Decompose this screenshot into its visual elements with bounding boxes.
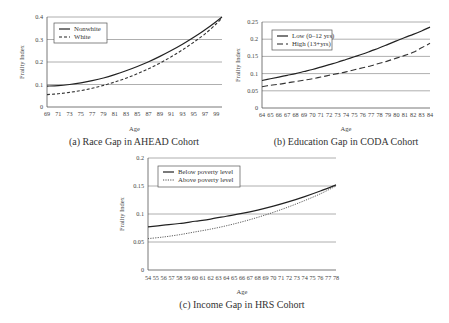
- x-tick-label: 83: [419, 111, 425, 118]
- legend-label: Nonwhite: [74, 25, 101, 32]
- x-tick-label: 70: [309, 111, 315, 118]
- legend-label: Low (0–12 yrs): [292, 32, 334, 40]
- y-tick-label: 0.25: [247, 18, 258, 25]
- x-tick-label: 80: [393, 111, 399, 118]
- x-tick-label: 58: [176, 274, 182, 281]
- y-tick-label: 0: [40, 103, 43, 110]
- x-tick-label: 55: [153, 274, 159, 281]
- x-tick-label: 81: [402, 111, 408, 118]
- y-axis-title: Frailty Index: [118, 196, 125, 231]
- legend: NonwhiteWhite: [54, 23, 107, 43]
- x-tick-label: 76: [360, 111, 366, 118]
- x-tick-label: 89: [157, 110, 163, 117]
- x-tick-label: 71: [278, 274, 284, 281]
- x-tick-label: 97: [202, 110, 208, 117]
- y-tick-label: 0.1: [250, 70, 258, 77]
- x-tick-label: 57: [168, 274, 174, 281]
- legend-label: White: [74, 33, 91, 40]
- legend-label: Above poverty level: [178, 176, 234, 183]
- y-tick-label: 0.1: [136, 210, 144, 217]
- chart-education-gap: 00.050.10.150.20.25646566676869707172737…: [234, 18, 433, 148]
- chart-caption: (b) Education Gap in CODA Cohort: [274, 136, 419, 148]
- x-tick-label: 65: [267, 111, 273, 118]
- x-tick-label: 71: [55, 110, 61, 117]
- series-line-above-poverty-level: [148, 186, 336, 239]
- x-tick-label: 61: [200, 274, 206, 281]
- y-tick-label: 0.2: [35, 58, 43, 65]
- x-tick-label: 81: [112, 110, 118, 117]
- x-tick-label: 75: [78, 110, 84, 117]
- y-tick-label: 0.4: [35, 13, 43, 20]
- x-tick-label: 78: [377, 111, 383, 118]
- x-tick-label: 71: [318, 111, 324, 118]
- x-tick-label: 83: [123, 110, 129, 117]
- x-tick-label: 73: [294, 274, 300, 281]
- x-tick-label: 60: [192, 274, 198, 281]
- legend-label: Below poverty level: [178, 168, 233, 175]
- x-tick-label: 59: [184, 274, 190, 281]
- x-tick-label: 74: [343, 111, 349, 118]
- x-tick-label: 82: [410, 111, 416, 118]
- figure-canvas: 00.10.20.30.4697173757779818385878991939…: [0, 0, 449, 323]
- x-tick-label: 91: [168, 110, 174, 117]
- x-tick-label: 66: [239, 274, 245, 281]
- x-tick-label: 70: [270, 274, 276, 281]
- x-tick-label: 84: [427, 111, 433, 118]
- legend-label: High (13+yrs): [292, 40, 331, 48]
- y-tick-label: 0: [255, 104, 258, 111]
- x-tick-label: 56: [161, 274, 167, 281]
- x-tick-label: 73: [335, 111, 341, 118]
- x-tick-label: 77: [325, 274, 331, 281]
- x-tick-label: 95: [191, 110, 197, 117]
- legend: Below poverty levelAbove poverty level: [158, 166, 240, 187]
- x-tick-label: 68: [255, 274, 261, 281]
- x-tick-label: 87: [146, 110, 152, 117]
- chart-income-gap: 00.050.10.150.25455565758596061626364656…: [118, 154, 339, 311]
- x-tick-label: 67: [247, 274, 253, 281]
- y-tick-label: 0.05: [247, 87, 258, 94]
- y-tick-label: 0.2: [136, 154, 144, 161]
- x-tick-label: 79: [100, 110, 106, 117]
- x-tick-label: 64: [259, 111, 265, 118]
- y-tick-label: 0.05: [133, 238, 144, 245]
- x-tick-label: 77: [89, 110, 95, 117]
- y-tick-label: 0.2: [250, 35, 258, 42]
- x-tick-label: 65: [231, 274, 237, 281]
- x-tick-label: 69: [44, 110, 50, 117]
- x-tick-label: 75: [309, 274, 315, 281]
- y-axis-title: Frailty Index: [234, 47, 241, 82]
- x-tick-label: 93: [179, 110, 185, 117]
- y-tick-label: 0.3: [35, 36, 43, 43]
- chart-race-gap: 00.10.20.30.4697173757779818385878991939…: [18, 13, 222, 148]
- x-tick-label: 77: [368, 111, 374, 118]
- x-tick-label: 85: [134, 110, 140, 117]
- x-tick-label: 69: [262, 274, 268, 281]
- x-axis-title: Age: [237, 288, 248, 295]
- chart-caption: (a) Race Gap in AHEAD Cohort: [69, 136, 199, 148]
- x-tick-label: 72: [286, 274, 292, 281]
- x-tick-label: 62: [208, 274, 214, 281]
- x-tick-label: 99: [213, 110, 219, 117]
- x-axis-title: Age: [129, 125, 140, 132]
- x-tick-label: 74: [302, 274, 308, 281]
- y-tick-label: 0.1: [35, 81, 43, 88]
- x-tick-label: 78: [333, 274, 339, 281]
- x-tick-label: 63: [215, 274, 221, 281]
- x-tick-label: 67: [284, 111, 290, 118]
- x-tick-label: 54: [145, 274, 151, 281]
- y-axis-title: Frailty Index: [18, 44, 25, 79]
- x-tick-label: 76: [317, 274, 323, 281]
- legend: Low (0–12 yrs)High (13+yrs): [272, 30, 334, 50]
- y-tick-label: 0.15: [133, 182, 144, 189]
- x-tick-label: 68: [293, 111, 299, 118]
- x-tick-label: 69: [301, 111, 307, 118]
- x-tick-label: 75: [351, 111, 357, 118]
- y-tick-label: 0: [141, 266, 144, 273]
- x-tick-label: 64: [223, 274, 229, 281]
- x-axis-title: Age: [341, 125, 352, 132]
- x-tick-label: 66: [276, 111, 282, 118]
- x-tick-label: 73: [66, 110, 72, 117]
- y-tick-label: 0.15: [247, 52, 258, 59]
- series-line-below-poverty-level: [148, 185, 336, 227]
- x-tick-label: 72: [326, 111, 332, 118]
